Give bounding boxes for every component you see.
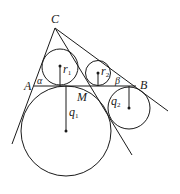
label-angle-alpha: α bbox=[37, 76, 42, 86]
label-r1: r1 bbox=[63, 63, 71, 77]
label-q1: q1 bbox=[69, 106, 79, 120]
diagram-canvas bbox=[0, 0, 180, 194]
label-point-a: A bbox=[24, 80, 31, 92]
label-point-b: B bbox=[140, 79, 147, 91]
label-angle-beta: β bbox=[115, 76, 120, 86]
geometry-diagram: C A B M α β r1 r2 q1 q2 bbox=[0, 0, 180, 194]
line-cm-extended bbox=[55, 28, 132, 155]
label-q2: q2 bbox=[111, 95, 121, 109]
label-point-m: M bbox=[77, 91, 87, 103]
label-point-c: C bbox=[51, 13, 59, 25]
label-r2: r2 bbox=[101, 65, 109, 79]
